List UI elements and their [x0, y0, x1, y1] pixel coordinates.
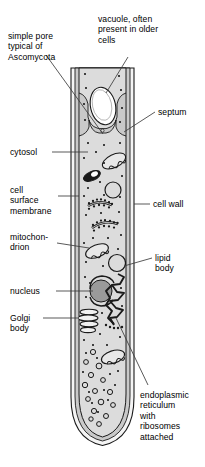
golgi-body: [78, 309, 98, 332]
label-lipid-body: lipid body: [155, 253, 197, 274]
label-cell-surface-membrane: cell surface membrane: [10, 185, 62, 216]
label-nucleus: nucleus: [10, 286, 58, 296]
label-cell-wall: cell wall: [153, 199, 203, 209]
label-cytosol: cytosol: [10, 147, 54, 157]
label-mitochondrion: mitochon- drion: [10, 232, 64, 253]
label-septum: septum: [158, 107, 202, 117]
hypha-diagram: simple pore typical of Ascomycota vacuol…: [0, 0, 205, 467]
label-vacuole: vacuole, often present in older cells: [98, 14, 176, 45]
label-golgi-body: Golgi body: [10, 313, 50, 334]
label-simple-pore: simple pore typical of Ascomycota: [8, 31, 72, 62]
label-endoplasmic-reticulum: endoplasmic reticulum with ribosomes att…: [140, 390, 205, 442]
lipid-body: [105, 182, 121, 198]
lipid-body: [109, 255, 126, 272]
